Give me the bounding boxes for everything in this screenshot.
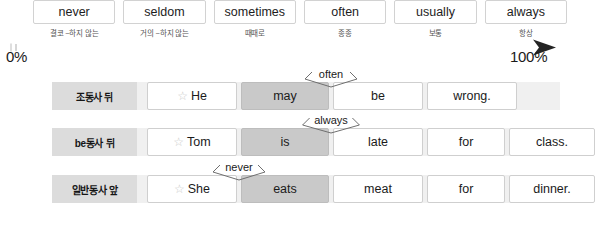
star-icon: ☆ xyxy=(173,136,184,148)
callout-bracket-icon xyxy=(179,161,299,183)
axis-end-label: 100% xyxy=(510,48,547,65)
word-cell-label: She xyxy=(188,182,210,196)
word-cell-label: be xyxy=(371,89,385,103)
word-cell-label: dinner. xyxy=(533,182,571,196)
frequency-scale-glosses: 결코 ~하지 않는거의 ~하지 않는때때로종종보통항상 xyxy=(33,25,567,39)
word-cell-label: for xyxy=(459,182,474,196)
word-cell[interactable]: ☆Tom xyxy=(147,128,237,156)
star-icon: ☆ xyxy=(177,90,188,102)
frequency-axis xyxy=(8,38,564,56)
word-cell-label: is xyxy=(280,135,289,149)
word-cell[interactable]: dinner. xyxy=(509,175,595,203)
adverb-callout: often xyxy=(271,68,391,90)
frequency-word-seldom[interactable]: seldom xyxy=(123,0,205,24)
adverb-callout: always xyxy=(271,114,391,136)
adverb-callout: never xyxy=(179,161,299,183)
word-cell-label: may xyxy=(273,89,297,103)
word-cell[interactable]: wrong. xyxy=(427,82,517,110)
frequency-word-always[interactable]: always xyxy=(485,0,567,24)
callout-bracket-icon xyxy=(271,114,391,136)
sentence-row: 일반동사 앞☆Sheeatsmeatfordinner. xyxy=(52,175,560,203)
word-cell[interactable]: for xyxy=(427,175,505,203)
frequency-gloss-usually: 보통 xyxy=(394,25,476,39)
frequency-word-sometimes[interactable]: sometimes xyxy=(214,0,296,24)
axis-start-label: 0% xyxy=(6,48,27,65)
frequency-scale-words: neverseldomsometimesoftenusuallyalways xyxy=(33,0,567,24)
word-cell[interactable]: meat xyxy=(333,175,423,203)
rule-label-chip: 조동사 뒤 xyxy=(52,82,137,110)
frequency-word-usually[interactable]: usually xyxy=(394,0,476,24)
frequency-gloss-always: 항상 xyxy=(485,25,567,39)
word-cell[interactable]: ☆He xyxy=(147,82,237,110)
word-cell-label: He xyxy=(191,89,207,103)
callout-bracket-icon xyxy=(271,68,391,90)
frequency-gloss-sometimes: 때때로 xyxy=(214,25,296,39)
word-cell[interactable]: class. xyxy=(509,128,595,156)
rule-label-chip: be동사 뒤 xyxy=(52,128,137,156)
frequency-gloss-seldom: 거의 ~하지 않는 xyxy=(123,25,205,39)
word-cell-label: eats xyxy=(273,182,297,196)
word-cell-label: meat xyxy=(364,182,392,196)
word-cell-label: wrong. xyxy=(453,89,491,103)
word-cell-label: class. xyxy=(536,135,568,149)
star-icon: ☆ xyxy=(174,183,185,195)
frequency-word-often[interactable]: often xyxy=(304,0,386,24)
rule-label-chip: 일반동사 앞 xyxy=(52,175,137,203)
word-cell-label: late xyxy=(368,135,388,149)
word-cell-label: Tom xyxy=(187,135,211,149)
word-cell-label: for xyxy=(459,135,474,149)
frequency-gloss-never: 결코 ~하지 않는 xyxy=(33,25,115,39)
frequency-word-never[interactable]: never xyxy=(33,0,115,24)
frequency-gloss-often: 종종 xyxy=(304,25,386,39)
word-cell[interactable]: for xyxy=(427,128,505,156)
